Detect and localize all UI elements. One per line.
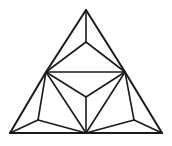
triangle-figure xyxy=(0,0,172,146)
